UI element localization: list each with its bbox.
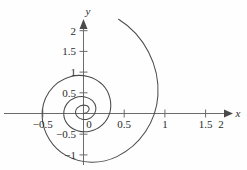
y-tick-label--1: −1 bbox=[64, 149, 76, 161]
plot-canvas: −0.5 0 0.5 1 1.5 2 −1 −0.5 0.5 1 1.5 2 x… bbox=[0, 0, 247, 170]
x-tick-label--0.5: −0.5 bbox=[33, 118, 53, 130]
y-tick-label-0.5: 0.5 bbox=[62, 87, 76, 99]
y-tick-label-2: 2 bbox=[71, 25, 77, 37]
x-axis-label: x bbox=[235, 107, 241, 119]
spiral-plot-figure: −0.5 0 0.5 1 1.5 2 −1 −0.5 0.5 1 1.5 2 x… bbox=[0, 0, 247, 170]
x-tick-label-0.5: 0.5 bbox=[117, 118, 131, 130]
x-tick-label-0: 0 bbox=[86, 118, 92, 130]
x-tick-label-1.5: 1.5 bbox=[199, 118, 213, 130]
plot-background bbox=[0, 0, 247, 170]
x-tick-label-2: 2 bbox=[218, 118, 224, 130]
y-tick-label-1: 1 bbox=[71, 66, 77, 78]
y-tick-label--0.5: −0.5 bbox=[56, 128, 76, 140]
y-tick-label-1.5: 1.5 bbox=[62, 45, 76, 57]
y-axis-label: y bbox=[85, 5, 91, 17]
x-tick-label-1: 1 bbox=[162, 118, 168, 130]
